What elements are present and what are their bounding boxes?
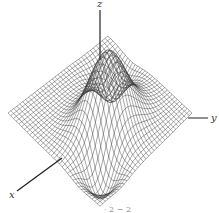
surface-grid-lines <box>8 36 192 206</box>
y-axis-label: y <box>210 112 217 123</box>
x-axis-line <box>17 158 62 191</box>
surface-plot-figure: z y x · 2 − 2 <box>0 0 219 213</box>
z-axis-label: z <box>96 0 103 9</box>
formula-caption-fragment: · 2 − 2 <box>104 205 131 213</box>
x-axis-label: x <box>9 189 15 200</box>
wireframe-mesh <box>8 36 192 206</box>
